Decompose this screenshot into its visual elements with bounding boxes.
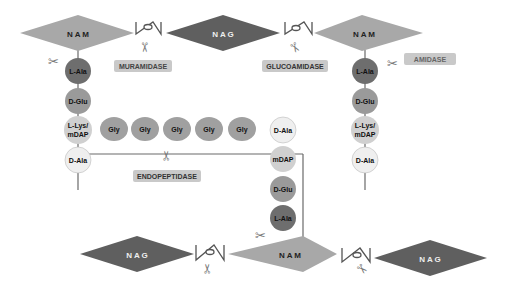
svg-text:mDAP: mDAP xyxy=(67,131,88,138)
svg-text:Gly: Gly xyxy=(171,126,182,134)
svg-text:D-Ala: D-Ala xyxy=(69,157,87,164)
scissors-icon: ✂ xyxy=(200,263,215,274)
nag-label: N A G xyxy=(212,30,234,39)
svg-text:L-Lys/: L-Lys/ xyxy=(68,122,88,130)
nam-label: N A M xyxy=(353,30,375,39)
nag-label: N A G xyxy=(419,255,441,264)
scissors-icon: ✂ xyxy=(137,42,152,53)
svg-text:mDAP: mDAP xyxy=(354,131,375,138)
svg-text:D-Glu: D-Glu xyxy=(68,98,87,105)
glycosidic-bond-4 xyxy=(342,248,370,262)
glycosidic-bond-2 xyxy=(285,22,312,34)
svg-text:GLUCOAMIDASE: GLUCOAMIDASE xyxy=(266,63,324,70)
nam-label: N A M xyxy=(279,251,301,260)
scissors-icon: ✂ xyxy=(48,54,59,69)
enzyme-label-amidase: AMIDASE xyxy=(404,53,456,65)
svg-text:D-Ala: D-Ala xyxy=(356,157,374,164)
scissors-icon: ✂ xyxy=(353,260,371,278)
scissors-icon: ✂ xyxy=(255,228,266,243)
svg-text:L-Ala: L-Ala xyxy=(274,215,292,222)
nam-label: N A M xyxy=(67,30,89,39)
enzyme-label-muramidase: MURAMIDASE xyxy=(114,60,172,72)
scissors-icon: ✂ xyxy=(159,150,174,161)
amino-acid-l-lys-mdap xyxy=(64,116,92,144)
svg-text:L-Ala: L-Ala xyxy=(356,68,374,75)
svg-text:D-Ala: D-Ala xyxy=(274,127,292,134)
glycosidic-bond-3 xyxy=(196,245,224,260)
glycosidic-bond-1 xyxy=(136,22,161,34)
enzyme-label-endopeptidase: ENDOPEPTIDASE xyxy=(133,170,201,182)
svg-text:D-Glu: D-Glu xyxy=(273,186,292,193)
peptidoglycan-diagram: N A M N A G N A M N A G N A M N A G L-Al… xyxy=(0,0,506,293)
center-stem: D-Ala mDAP D-Glu L-Ala xyxy=(270,117,296,231)
svg-text:mDAP: mDAP xyxy=(272,156,293,163)
svg-text:Gly: Gly xyxy=(108,126,119,134)
svg-text:D-Glu: D-Glu xyxy=(355,98,374,105)
svg-text:ENDOPEPTIDASE: ENDOPEPTIDASE xyxy=(137,173,197,180)
svg-text:AMIDASE: AMIDASE xyxy=(414,56,447,63)
svg-text:Gly: Gly xyxy=(203,126,214,134)
scissors-icon: ✂ xyxy=(286,39,304,56)
amino-acid-l-lys-mdap xyxy=(351,116,379,144)
svg-text:L-Lys/: L-Lys/ xyxy=(355,122,375,130)
svg-text:MURAMIDASE: MURAMIDASE xyxy=(119,63,168,70)
svg-text:Gly: Gly xyxy=(236,126,247,134)
pentaglycine-bridge: Gly Gly Gly Gly Gly xyxy=(100,117,256,141)
scissors-icon: ✂ xyxy=(387,56,398,71)
svg-text:L-Ala: L-Ala xyxy=(69,68,87,75)
enzyme-label-glucoamidase: GLUCOAMIDASE xyxy=(262,60,328,72)
svg-text:Gly: Gly xyxy=(139,126,150,134)
nag-label: N A G xyxy=(126,251,148,260)
